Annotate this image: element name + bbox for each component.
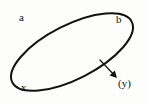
label-x: x (21, 82, 27, 93)
label-y: (y) (118, 78, 131, 89)
label-b: b (116, 14, 122, 25)
ellipse-diagram: a b x (y) (0, 0, 147, 104)
label-a: a (19, 12, 24, 23)
